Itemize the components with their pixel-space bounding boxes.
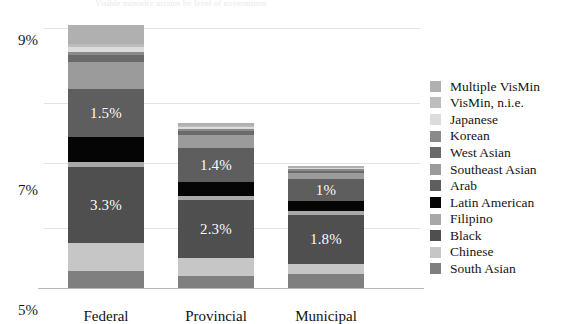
legend-label: Arab (450, 179, 477, 193)
legend-item[interactable]: Arab (430, 178, 570, 195)
bar-segment-southeast-asian[interactable] (178, 135, 254, 148)
bar-segment-latin-american[interactable] (68, 137, 144, 163)
bar-segment-south-asian[interactable] (288, 274, 364, 288)
bar-segment-black[interactable]: 2.3% (178, 200, 254, 258)
bar-value-label: 2.3% (178, 220, 254, 237)
legend-swatch-icon (430, 247, 441, 258)
chart-title-cropped: Visible minority groups by level of gove… (95, 0, 325, 6)
legend-label: Latin American (450, 196, 534, 210)
legend-item[interactable]: Black (430, 227, 570, 244)
legend-label: VisMin, n.i.e. (450, 96, 524, 110)
legend-item[interactable]: Korean (430, 128, 570, 145)
bar-segment-south-asian[interactable] (68, 271, 144, 288)
bar-segment-arab[interactable]: 1.5% (68, 89, 144, 137)
bar-segment-latin-american[interactable] (178, 182, 254, 195)
legend-swatch-icon (430, 230, 441, 241)
bar-value-label: 1% (288, 181, 364, 198)
bar-segment-arab[interactable]: 1% (288, 179, 364, 201)
bar-segment-arab[interactable]: 1.4% (178, 148, 254, 183)
legend-label: Multiple VisMin (450, 80, 540, 94)
y-axis-tick-label: 7% (18, 182, 38, 199)
stacked-bar-chart: Visible minority groups by level of gove… (0, 0, 572, 324)
bar-segment-black[interactable]: 3.3% (68, 167, 144, 243)
bar-segment-chinese[interactable] (68, 243, 144, 272)
legend-swatch-icon (430, 147, 441, 158)
bar-segment-black[interactable]: 1.8% (288, 215, 364, 264)
legend-label: South Asian (450, 262, 516, 276)
bar-segment-chinese[interactable] (288, 264, 364, 275)
x-axis-baseline (38, 288, 424, 289)
legend-item[interactable]: Multiple VisMin (430, 78, 570, 95)
legend-swatch-icon (430, 197, 441, 208)
legend-label: Filipino (450, 212, 493, 226)
legend-label: West Asian (450, 146, 511, 160)
bar-segment-latin-american[interactable] (288, 201, 364, 212)
legend-swatch-icon (430, 114, 441, 125)
legend-label: Black (450, 229, 482, 243)
y-axis-tick-label: 9% (18, 32, 38, 49)
bar-municipal[interactable]: 1%1.8% (288, 166, 364, 288)
bar-segment-south-asian[interactable] (178, 276, 254, 288)
bar-value-label: 1.4% (178, 157, 254, 174)
legend-swatch-icon (430, 81, 441, 92)
legend-item[interactable]: Southeast Asian (430, 161, 570, 178)
legend-item[interactable]: Japanese (430, 111, 570, 128)
legend-label: Japanese (450, 113, 498, 127)
legend-item[interactable]: Chinese (430, 244, 570, 261)
legend-swatch-icon (430, 131, 441, 142)
x-axis-label-municipal: Municipal (256, 308, 396, 324)
bar-segment-west-asian[interactable] (68, 55, 144, 62)
legend-item[interactable]: South Asian (430, 261, 570, 278)
chart-legend: Multiple VisMinVisMin, n.i.e.JapaneseKor… (430, 78, 570, 277)
plot-area: 9%7%5%2% 1.5%3.3%1.4%2.3%1%1.8% FederalP… (38, 16, 420, 288)
legend-label: Southeast Asian (450, 163, 537, 177)
legend-item[interactable]: Latin American (430, 194, 570, 211)
legend-item[interactable]: Filipino (430, 211, 570, 228)
legend-item[interactable]: West Asian (430, 144, 570, 161)
y-axis-tick-label: 5% (18, 302, 38, 319)
bar-segment-southeast-asian[interactable] (68, 62, 144, 89)
bar-segment-chinese[interactable] (178, 258, 254, 276)
legend-swatch-icon (430, 180, 441, 191)
bar-provincial[interactable]: 1.4%2.3% (178, 123, 254, 289)
legend-item[interactable]: VisMin, n.i.e. (430, 95, 570, 112)
bar-value-label: 3.3% (68, 197, 144, 214)
legend-swatch-icon (430, 164, 441, 175)
bar-federal[interactable]: 1.5%3.3% (68, 25, 144, 288)
bar-segment-multiple-vismin[interactable] (68, 25, 144, 44)
bar-value-label: 1.8% (288, 231, 364, 248)
legend-swatch-icon (430, 214, 441, 225)
legend-label: Korean (450, 129, 490, 143)
legend-swatch-icon (430, 263, 441, 274)
legend-swatch-icon (430, 97, 441, 108)
bar-value-label: 1.5% (68, 105, 144, 122)
legend-label: Chinese (450, 245, 494, 259)
